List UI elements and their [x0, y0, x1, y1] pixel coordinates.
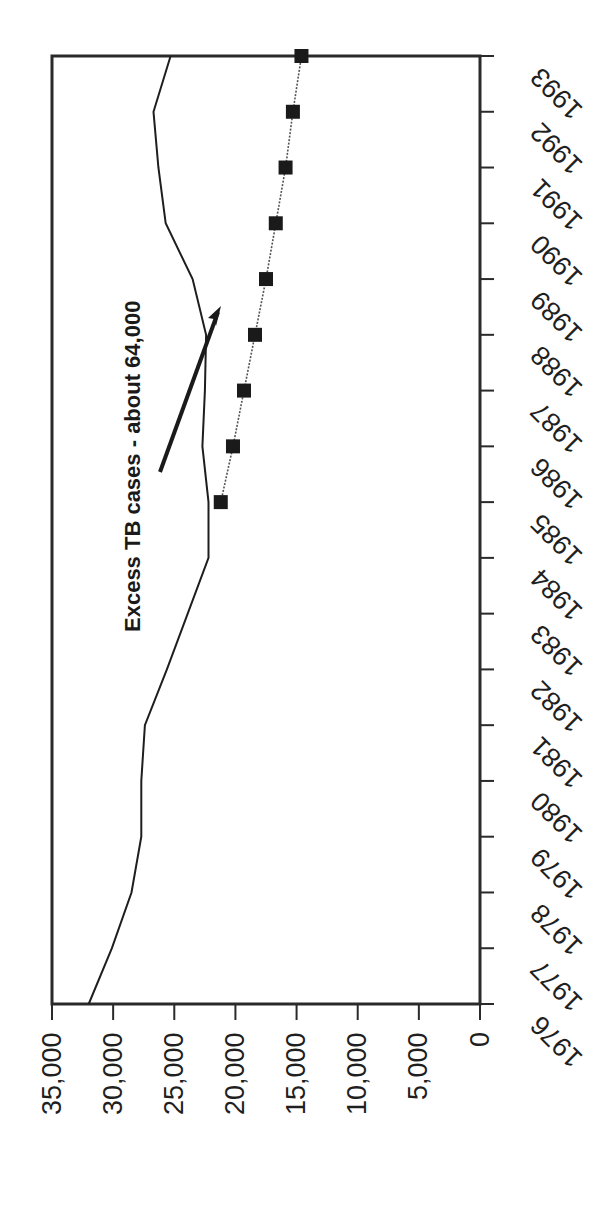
square-marker-icon [269, 216, 283, 230]
plot-frame [52, 56, 480, 1004]
value-tick-label: 10,000 [342, 1032, 373, 1115]
tb-cases-chart: 35,00030,00025,00020,00015,00010,0005,00… [0, 0, 601, 1222]
value-tick-label: 30,000 [98, 1032, 129, 1115]
value-axis-ticks [52, 1004, 480, 1020]
square-marker-icon [214, 495, 228, 509]
value-tick-label: 25,000 [159, 1032, 190, 1115]
value-tick-label: 0 [465, 1032, 496, 1047]
expected-cases-markers [214, 49, 309, 509]
reported-cases-line [89, 56, 209, 1004]
value-tick-label: 5,000 [403, 1032, 434, 1100]
value-tick-label: 35,000 [37, 1032, 68, 1115]
square-marker-icon [226, 439, 240, 453]
square-marker-icon [294, 49, 308, 63]
square-marker-icon [237, 384, 251, 398]
square-marker-icon [248, 328, 262, 342]
square-marker-icon [286, 105, 300, 119]
square-marker-icon [279, 161, 293, 175]
square-marker-icon [259, 272, 273, 286]
value-tick-label: 20,000 [220, 1032, 251, 1115]
year-axis-ticks [480, 56, 494, 1004]
excess-cases-annotation: Excess TB cases - about 64,000 [120, 301, 146, 632]
annotation-arrow [160, 306, 221, 472]
value-tick-label: 15,000 [281, 1032, 312, 1115]
